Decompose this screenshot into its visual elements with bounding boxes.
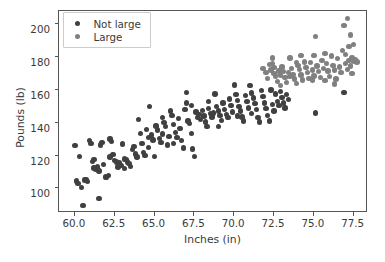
data-point	[85, 179, 90, 184]
chart-legend: Not largeLarge	[63, 12, 151, 48]
data-point	[271, 108, 276, 113]
y-tick-mark	[55, 155, 59, 156]
data-point	[187, 121, 192, 126]
data-point	[308, 60, 313, 65]
data-point	[181, 145, 186, 150]
data-point	[267, 118, 272, 123]
data-point	[138, 131, 143, 136]
data-point	[343, 52, 348, 57]
data-point	[262, 100, 267, 105]
data-point	[144, 127, 149, 132]
data-point	[310, 77, 315, 82]
data-point	[341, 90, 346, 95]
data-point	[322, 78, 327, 83]
data-point	[189, 103, 194, 108]
data-point	[106, 173, 111, 178]
legend-label: Large	[93, 31, 122, 43]
data-point	[163, 124, 168, 129]
data-point	[254, 107, 259, 112]
data-point	[216, 124, 221, 129]
data-point	[107, 154, 112, 159]
data-point	[99, 140, 104, 145]
data-point	[313, 110, 318, 115]
data-point	[263, 70, 268, 75]
data-point	[348, 63, 353, 68]
data-point	[122, 166, 127, 171]
y-tick-mark	[55, 56, 59, 57]
x-tick-label: 67.5	[182, 217, 205, 229]
data-point	[241, 118, 246, 123]
data-point	[131, 144, 136, 149]
data-point	[302, 59, 307, 64]
data-point	[233, 92, 238, 97]
data-point	[349, 71, 354, 76]
data-point	[146, 145, 151, 150]
x-tick-mark	[114, 212, 115, 216]
data-point	[72, 143, 77, 148]
y-tick-mark	[55, 23, 59, 24]
data-point	[184, 90, 189, 95]
x-tick-label: 60.0	[62, 217, 85, 229]
data-point	[219, 118, 224, 123]
legend-item: Not large	[71, 17, 141, 30]
x-tick-mark	[154, 212, 155, 216]
data-point	[284, 80, 289, 85]
data-point	[179, 138, 184, 143]
data-point	[204, 124, 209, 129]
data-point	[332, 81, 337, 86]
data-point	[325, 68, 330, 73]
data-point	[270, 55, 275, 60]
data-point	[136, 117, 141, 122]
data-point	[338, 70, 343, 75]
x-tick-mark	[313, 212, 314, 216]
data-point	[171, 122, 176, 127]
data-point	[200, 108, 205, 113]
data-point	[158, 140, 163, 145]
data-point	[249, 111, 254, 116]
data-point	[252, 101, 257, 106]
data-point	[345, 16, 350, 21]
data-point	[341, 23, 346, 28]
data-point	[243, 93, 248, 98]
data-point	[244, 99, 249, 104]
data-point	[212, 91, 217, 96]
data-point	[134, 154, 139, 159]
data-point	[246, 105, 251, 110]
data-point	[109, 139, 114, 144]
data-point	[351, 42, 356, 47]
x-tick-label: 62.5	[102, 217, 125, 229]
x-tick-mark	[193, 212, 194, 216]
data-point	[270, 102, 275, 107]
data-point	[96, 168, 101, 173]
legend-item: Large	[71, 30, 141, 43]
data-point	[247, 83, 252, 88]
data-point	[298, 53, 303, 58]
data-point	[235, 113, 240, 118]
data-point	[311, 53, 316, 58]
data-point	[263, 106, 268, 111]
legend-marker-icon	[75, 34, 80, 39]
data-point	[297, 67, 302, 72]
data-point	[120, 141, 125, 146]
data-point	[232, 82, 237, 87]
data-point	[177, 126, 182, 131]
data-point	[171, 141, 176, 146]
x-tick-mark	[353, 212, 354, 216]
data-point	[91, 157, 96, 162]
data-point	[354, 59, 359, 64]
x-tick-mark	[74, 212, 75, 216]
data-point	[147, 104, 152, 109]
data-point	[206, 99, 211, 104]
data-point	[152, 154, 157, 159]
data-point	[227, 96, 232, 101]
data-point	[322, 51, 327, 56]
y-tick-mark	[55, 89, 59, 90]
data-point	[348, 32, 353, 37]
data-point	[294, 81, 299, 86]
data-point	[257, 119, 262, 124]
scatter-plot-figure: Pounds (lb) Inches (in) Not largeLarge 6…	[0, 0, 385, 262]
data-point	[189, 131, 194, 136]
legend-label: Not large	[93, 18, 140, 30]
data-point	[201, 113, 206, 118]
data-point	[329, 53, 334, 58]
